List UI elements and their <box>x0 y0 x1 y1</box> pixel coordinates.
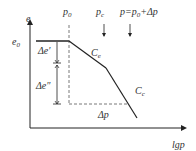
delta-e2-label: Δe″ <box>36 81 50 91</box>
p-total-label: p=p0+Δp <box>120 7 158 19</box>
p0-label: p0 <box>63 7 72 19</box>
pc-label: pc <box>96 7 104 19</box>
cc-segment <box>106 68 137 118</box>
x-axis-label: lgp <box>172 140 185 150</box>
e0-label: e0 <box>12 37 20 49</box>
ce-label: Ce <box>91 48 101 60</box>
y-axis-label: e <box>26 14 30 24</box>
delta-e1-label: Δe′ <box>38 46 51 56</box>
delta-p-label: Δp <box>98 110 109 120</box>
cc-label: Cc <box>135 86 145 98</box>
